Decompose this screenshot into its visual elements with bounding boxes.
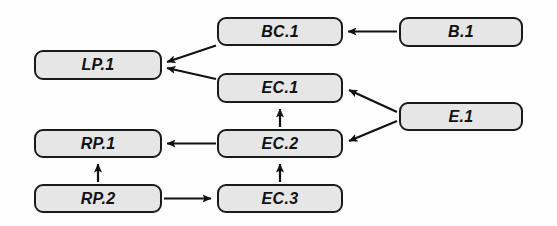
node-label: EC.1 xyxy=(262,79,299,97)
node-label: B.1 xyxy=(448,23,474,41)
node-label: EC.3 xyxy=(262,190,299,208)
node-label: RP.2 xyxy=(81,190,116,208)
node-b1[interactable]: B.1 xyxy=(399,17,523,47)
node-bc1[interactable]: BC.1 xyxy=(217,17,343,46)
node-ec1[interactable]: EC.1 xyxy=(217,73,343,103)
edge-e1-to-ec1 xyxy=(349,90,397,112)
diagram-canvas: LP.1 BC.1 B.1 EC.1 E.1 EC.2 RP.1 RP.2 EC… xyxy=(0,0,557,226)
edge-e1-to-ec2 xyxy=(349,121,397,141)
node-rp1[interactable]: RP.1 xyxy=(34,129,162,158)
node-ec2[interactable]: EC.2 xyxy=(217,129,343,158)
node-e1[interactable]: E.1 xyxy=(399,102,523,131)
node-label: EC.2 xyxy=(262,135,299,153)
node-lp1[interactable]: LP.1 xyxy=(34,50,162,80)
edge-ec1-to-lp1 xyxy=(167,68,216,79)
node-label: E.1 xyxy=(449,108,474,126)
node-label: RP.1 xyxy=(81,135,116,153)
node-label: BC.1 xyxy=(261,23,299,41)
edge-bc1-to-lp1 xyxy=(167,46,216,63)
node-rp2[interactable]: RP.2 xyxy=(34,184,162,213)
node-ec3[interactable]: EC.3 xyxy=(217,184,343,213)
node-label: LP.1 xyxy=(82,56,115,74)
